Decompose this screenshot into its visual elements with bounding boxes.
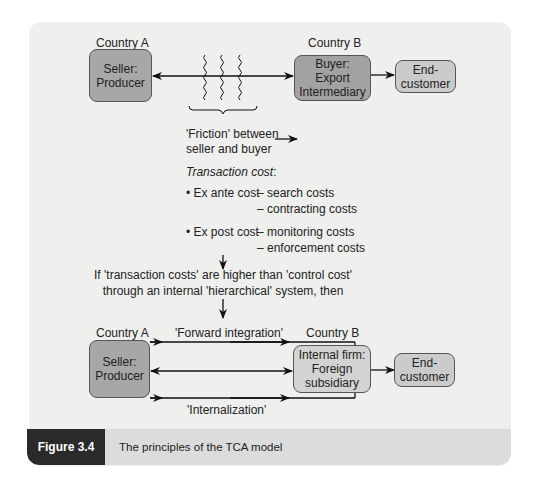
ex-post-label: • Ex post cost [186, 225, 259, 239]
internal-firm-label: Internal firm: [299, 348, 366, 362]
transaction-cost-heading: Transaction cost: [186, 165, 277, 179]
internal-firm-foreign-subsidiary-box: Internal firm: Foreign subsidiary [293, 345, 371, 393]
friction-waves-icon [204, 55, 242, 100]
end-label: End- [401, 63, 450, 77]
friction-line1: 'Friction' between [186, 127, 279, 141]
buyer-export-intermediary-box: Buyer: Export Intermediary [294, 55, 371, 101]
subsidiary-label: subsidiary [299, 376, 366, 390]
customer-label: customer [400, 370, 449, 384]
transaction-cost-title: Transaction cost [186, 165, 273, 179]
producer-label: Producer [96, 76, 145, 90]
country-a-label-top: Country A [96, 36, 149, 50]
country-b-label-bottom: Country B [306, 326, 359, 340]
country-b-label-top: Country B [308, 36, 361, 50]
condition-line1: If 'transaction costs' are higher than '… [0, 268, 446, 282]
enforcement-costs: – enforcement costs [257, 241, 365, 255]
buyer-label: Buyer: [299, 57, 366, 71]
seller-producer-box-top: Seller: Producer [89, 49, 152, 102]
end-label: End- [400, 356, 449, 370]
producer-label: Producer [95, 369, 144, 383]
seller-label: Seller: [96, 62, 145, 76]
export-label: Export [299, 71, 366, 85]
intermediary-label: Intermediary [299, 85, 366, 99]
ex-ante-label: • Ex ante cost [186, 186, 260, 200]
foreign-label: Foreign [299, 362, 366, 376]
colon: : [273, 165, 276, 179]
country-a-label-bottom: Country A [96, 326, 149, 340]
monitoring-costs: – monitoring costs [257, 225, 354, 239]
condition-line2: through an internal 'hierarchical' syste… [0, 284, 446, 298]
figure-caption: The principles of the TCA model [119, 429, 282, 465]
end-customer-box-top: End- customer [395, 60, 456, 93]
figure-number: Figure 3.4 [27, 429, 105, 465]
customer-label: customer [401, 77, 450, 91]
end-customer-box-bottom: End- customer [394, 353, 455, 387]
seller-label: Seller: [95, 355, 144, 369]
contracting-costs: – contracting costs [257, 202, 357, 216]
internalization-label: 'Internalization' [187, 403, 266, 417]
friction-line2: seller and buyer [186, 142, 271, 156]
seller-producer-box-bottom: Seller: Producer [89, 340, 150, 398]
brace-icon [189, 106, 257, 114]
caption-bar: Figure 3.4 The principles of the TCA mod… [27, 429, 511, 465]
search-costs: – search costs [257, 186, 334, 200]
forward-integration-label: 'Forward integration' [175, 326, 283, 340]
